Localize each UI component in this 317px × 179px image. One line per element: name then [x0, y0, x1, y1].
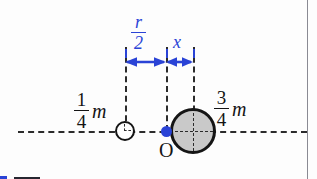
fraction-denominator: 4	[215, 109, 229, 129]
mass-unit-symbol: m	[232, 99, 246, 119]
fraction-numerator: r	[133, 13, 144, 32]
left-mass-label: 1 4 m	[74, 90, 106, 131]
dimension-label-x: x	[173, 33, 181, 51]
right-mass-circle	[170, 108, 216, 154]
dimension-arrow-r-over-2	[125, 56, 166, 68]
dimension-arrow-x	[166, 56, 193, 68]
right-mass-crosshair-horizontal	[175, 131, 213, 132]
left-mass-crosshair-horizontal	[124, 130, 131, 131]
right-mass-crosshair-vertical	[193, 113, 194, 151]
dim-tick-right-top	[193, 49, 195, 58]
variable-x-text: x	[173, 32, 181, 52]
left-mass-circle	[115, 121, 135, 141]
fraction-denominator: 4	[75, 111, 89, 131]
fraction-numerator: 3	[215, 88, 229, 108]
fraction-numerator: 1	[75, 90, 89, 110]
caption-rule-icon	[14, 177, 40, 179]
physics-diagram-figure: r 2 x 1 4 m 3 4 m	[0, 0, 317, 179]
caption-strip	[0, 172, 317, 179]
page-edge-rule	[307, 0, 308, 179]
fraction-three-quarters: 3 4	[214, 88, 229, 129]
fraction-r-over-2: r 2	[131, 13, 146, 52]
right-mass-label: 3 4 m	[214, 88, 246, 129]
caption-bullet-icon	[0, 176, 7, 179]
origin-dot	[161, 126, 172, 137]
dimension-label-r-over-2: r 2	[131, 13, 146, 52]
fraction-one-quarter: 1 4	[74, 90, 89, 131]
mass-unit-symbol: m	[92, 101, 106, 121]
origin-label: O	[159, 140, 173, 160]
origin-label-text: O	[159, 139, 173, 161]
fraction-denominator: 2	[132, 33, 145, 52]
